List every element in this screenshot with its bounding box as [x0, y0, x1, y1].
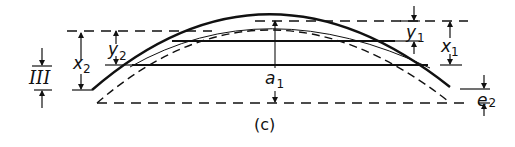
diagram-canvas: x2 y2 III a1 y1 x1 e2 (c)	[0, 0, 515, 147]
y2-label: y2	[107, 39, 127, 63]
y1-label: y1	[405, 22, 425, 45]
figure-caption: (c)	[254, 115, 275, 134]
region-iii-label: III	[28, 67, 51, 88]
x2-label: x2	[72, 53, 91, 76]
e2-label: e2	[477, 90, 496, 110]
x1-label: x1	[440, 36, 459, 59]
a1-label: a1	[265, 68, 284, 91]
